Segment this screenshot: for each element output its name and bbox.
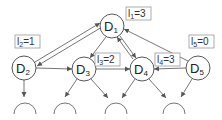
- label-l4: l4=3: [155, 53, 180, 66]
- label-l3: l3=2: [95, 53, 120, 66]
- node-d3: D3: [72, 57, 96, 81]
- child-node-4: [163, 103, 185, 114]
- node-d4: D4: [130, 57, 154, 81]
- distributed-graph-diagram: D1 D2 D3 D4 D5 l1=3 l2=1 l3=2 l4=3 l5=0: [0, 0, 222, 120]
- node-d1: D1: [100, 14, 124, 38]
- edge-d2-d3: [36, 68, 72, 69]
- edge-d5-d4: [154, 68, 186, 69]
- edge-d3-child3: [91, 79, 108, 98]
- child-node-3: [105, 103, 127, 114]
- child-node-2: [54, 103, 76, 114]
- edge-d5-child4: [181, 79, 192, 97]
- child-nodes: [14, 103, 185, 114]
- edge-d3-child2: [65, 79, 77, 97]
- edge-d4-child3: [122, 79, 135, 98]
- node-d2: D2: [12, 56, 36, 80]
- edge-d2-d1-a: [35, 23, 100, 62]
- label-l1: l1=3: [126, 7, 151, 20]
- child-node-1: [14, 103, 36, 114]
- label-l2: l2=1: [15, 35, 40, 48]
- node-d5: D5: [186, 56, 210, 80]
- label-l5: l5=0: [189, 35, 214, 48]
- edge-d1-d4-b: [120, 36, 136, 58]
- edge-d4-child4: [149, 79, 166, 98]
